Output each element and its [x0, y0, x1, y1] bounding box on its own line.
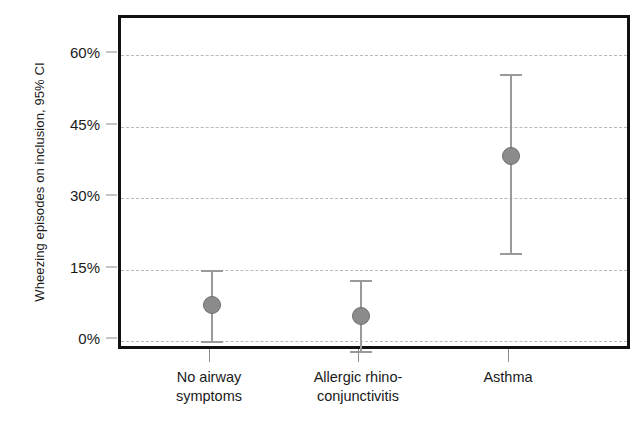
gridline [121, 55, 627, 56]
gridline [121, 198, 627, 199]
y-axis-tick-mark [106, 195, 117, 196]
gridline [121, 270, 627, 271]
x-axis-tick-mark [508, 349, 509, 362]
y-axis-tick-label: 15% [26, 258, 100, 275]
y-axis-tick-label: 45% [26, 115, 100, 132]
gridline [121, 127, 627, 128]
y-axis-tick-label: 0% [26, 330, 100, 347]
y-axis-tick-label: 30% [26, 187, 100, 204]
x-axis-tick-marks [0, 349, 640, 363]
y-axis-tick-mark [106, 266, 117, 267]
x-axis-tick-label: Asthma [423, 368, 593, 387]
error-bar-cap-lower [201, 341, 223, 343]
data-point-marker[interactable] [502, 147, 520, 165]
y-axis-tick-mark [106, 338, 117, 339]
chart-figure: Wheezing episodes on inclusion, 95% CI 0… [0, 0, 640, 430]
data-point-marker[interactable] [352, 307, 370, 325]
y-axis-tick-label: 60% [26, 44, 100, 61]
x-axis-tick-label-line1: Asthma [483, 369, 532, 385]
y-axis-tick-mark [106, 123, 117, 124]
x-axis-tick-label: Allergic rhino-conjunctivitis [273, 368, 443, 406]
plot-area [118, 15, 630, 349]
error-bar-cap-upper [350, 280, 372, 282]
error-bar-cap-lower [500, 253, 522, 255]
x-axis-tick-label-line2: conjunctivitis [273, 387, 443, 406]
error-bar-cap-upper [201, 270, 223, 272]
x-axis-tick-mark [209, 349, 210, 362]
error-bar-cap-upper [500, 74, 522, 76]
gridline [121, 341, 627, 342]
x-axis-tick-label-line1: Allergic rhino- [314, 369, 403, 385]
x-axis-tick-labels: No airwaysymptomsAllergic rhino-conjunct… [0, 368, 640, 424]
x-axis-tick-label-line1: No airway [177, 369, 241, 385]
x-axis-tick-label-line2: symptoms [124, 387, 294, 406]
x-axis-tick-mark [358, 349, 359, 362]
y-axis-tick-labels: 0%15%30%45%60% [26, 0, 100, 430]
data-point-marker[interactable] [203, 296, 221, 314]
x-axis-tick-label: No airwaysymptoms [124, 368, 294, 406]
y-axis-tick-mark [106, 52, 117, 53]
